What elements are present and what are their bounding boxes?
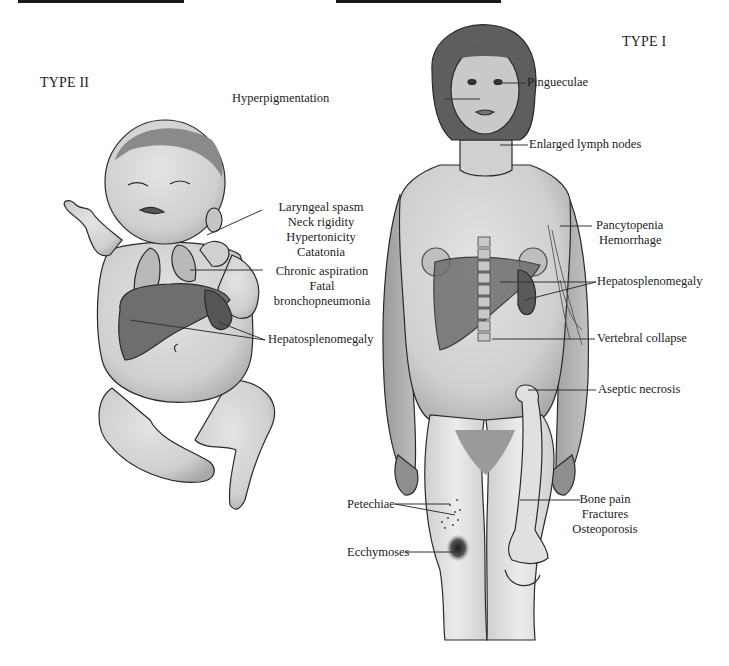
- label-enlarged-lymph-nodes: Enlarged lymph nodes: [529, 137, 641, 152]
- label-type2-hepatosplenomegaly: Hepatosplenomegaly: [268, 332, 374, 347]
- adult-spine: [478, 237, 490, 341]
- label-hemorrhage: Hemorrhage: [596, 233, 663, 248]
- type2-title: TYPE II: [40, 75, 89, 91]
- label-bronchopneumonia: bronchopneumonia: [262, 294, 382, 309]
- label-vertebral-collapse: Vertebral collapse: [597, 331, 687, 346]
- type1-title: TYPE I: [622, 34, 666, 50]
- label-hyperpigmentation: Hyperpigmentation: [232, 91, 329, 106]
- label-chronic-aspiration: Chronic aspiration: [262, 264, 382, 279]
- type1-bone-labels: Bone pain Fractures Osteoporosis: [570, 492, 640, 537]
- label-fractures: Fractures: [570, 507, 640, 522]
- type1-blood-labels: Pancytopenia Hemorrhage: [596, 218, 663, 248]
- label-hypertonicity: Hypertonicity: [266, 230, 376, 245]
- label-ecchymoses: Ecchymoses: [347, 545, 409, 560]
- label-osteoporosis: Osteoporosis: [570, 522, 640, 537]
- adult-figure: [383, 25, 588, 640]
- label-fatal: Fatal: [262, 279, 382, 294]
- label-bone-pain: Bone pain: [570, 492, 640, 507]
- label-catatonia: Catatonia: [266, 245, 376, 260]
- adult-face: [451, 46, 519, 134]
- label-petechiae: Petechiae: [347, 497, 395, 512]
- label-aseptic-necrosis: Aseptic necrosis: [598, 382, 680, 397]
- label-pingueculae: Pingueculae: [527, 75, 588, 90]
- label-laryngeal-spasm: Laryngeal spasm: [266, 200, 376, 215]
- infant-left-leg: [99, 388, 214, 482]
- ecchymosis-spot: [446, 534, 470, 562]
- infant-figure: [64, 120, 274, 509]
- label-pancytopenia: Pancytopenia: [596, 218, 663, 233]
- label-type1-hepatosplenomegaly: Hepatosplenomegaly: [597, 274, 703, 289]
- type2-lung-labels: Chronic aspiration Fatal bronchopneumoni…: [262, 264, 382, 309]
- type2-neuro-labels: Laryngeal spasm Neck rigidity Hypertonic…: [266, 200, 376, 260]
- label-neck-rigidity: Neck rigidity: [266, 215, 376, 230]
